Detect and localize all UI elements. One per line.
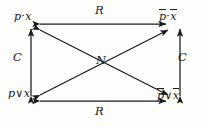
node-top-left-arg: x (25, 10, 32, 23)
node-bottom-right-op: ∨ (164, 89, 172, 102)
node-bottom-right-base: p (157, 89, 164, 102)
node-top-right: p·x (159, 10, 177, 23)
edge-label-top-R: R (95, 3, 104, 17)
node-bottom-left-arg: x (24, 87, 31, 100)
edge-label-bottom-R: R (95, 104, 104, 118)
node-bottom-right-arg: x (173, 89, 180, 102)
node-bottom-right: p∨x (157, 89, 179, 102)
node-top-right-base: p (159, 10, 166, 23)
edge-label-center-N: N (96, 53, 106, 67)
node-top-left: p·x (14, 10, 32, 23)
logic-square-diagram: p·x p·x p∨x p∨x R R C C N (0, 0, 208, 127)
edge-label-left-C: C (13, 50, 22, 64)
edge-label-right-C: C (178, 50, 187, 64)
node-bottom-left-op: ∨ (15, 87, 23, 100)
node-bottom-left: p∨x (8, 87, 30, 100)
node-top-right-arg: x (170, 10, 177, 23)
